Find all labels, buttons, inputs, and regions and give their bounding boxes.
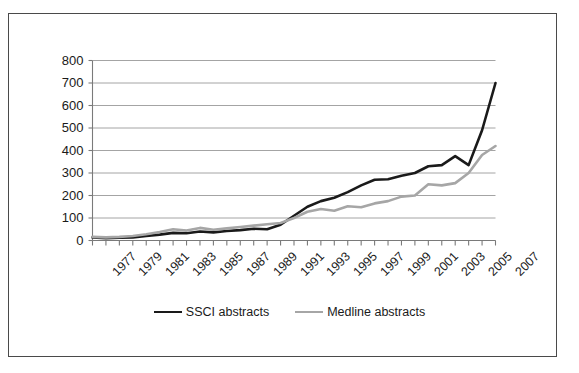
legend-entry-1: SSCI abstracts xyxy=(154,306,269,319)
legend-label: Medline abstracts xyxy=(327,306,425,319)
y-tick-label: 700 xyxy=(42,76,84,89)
legend-label: SSCI abstracts xyxy=(186,306,269,319)
legend-entry-2: Medline abstracts xyxy=(295,306,425,319)
gridlines xyxy=(93,61,496,241)
data-series-group xyxy=(93,83,496,238)
y-tick-label: 100 xyxy=(42,211,84,224)
x-axis-ticks xyxy=(93,241,496,246)
y-tick-label: 500 xyxy=(42,121,84,134)
y-tick-label: 400 xyxy=(42,144,84,157)
series-line-1 xyxy=(93,83,496,238)
y-tick-label: 600 xyxy=(42,99,84,112)
y-axis-ticks xyxy=(89,61,93,241)
series-line-2 xyxy=(93,146,496,237)
chart-legend: SSCI abstractsMedline abstracts xyxy=(0,306,579,319)
y-tick-label: 200 xyxy=(42,189,84,202)
legend-swatch-icon xyxy=(154,311,182,313)
y-tick-label: 0 xyxy=(42,234,84,247)
y-tick-label: 800 xyxy=(42,54,84,67)
y-tick-label: 300 xyxy=(42,166,84,179)
legend-swatch-icon xyxy=(295,311,323,313)
